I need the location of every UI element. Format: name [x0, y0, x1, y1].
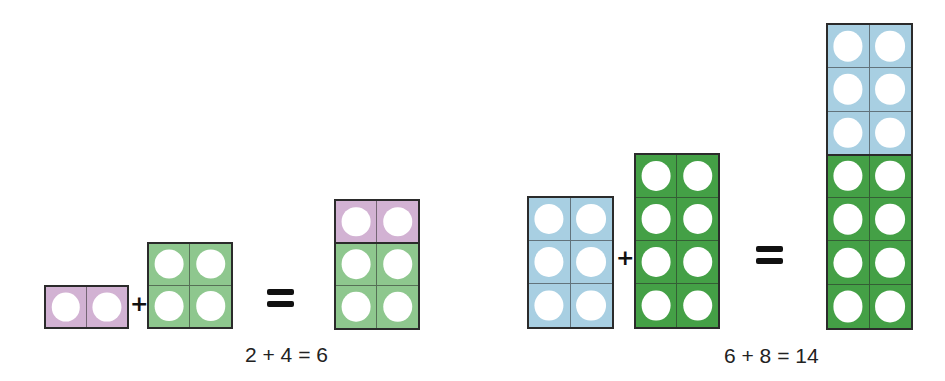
peg-hole-icon — [875, 74, 905, 104]
peg-hole-icon — [535, 247, 564, 277]
peg-hole-icon — [342, 249, 371, 279]
peg-cell — [190, 286, 231, 328]
peg-cell — [571, 284, 613, 327]
numicon-2-pink — [44, 285, 129, 329]
peg-hole-icon — [535, 290, 564, 321]
peg-cell — [828, 155, 870, 198]
peg-hole-icon — [642, 204, 671, 234]
peg-cell — [87, 287, 128, 327]
peg-cell — [828, 285, 870, 328]
segment-divider — [828, 154, 911, 156]
peg-cell — [677, 241, 718, 284]
peg-cell — [677, 284, 718, 327]
peg-cell — [571, 198, 613, 241]
peg-cell — [870, 68, 912, 111]
peg-cell — [828, 198, 870, 241]
peg-hole-icon — [875, 117, 905, 147]
caption-equation-1: 2 + 4 = 6 — [245, 343, 328, 367]
peg-hole-icon — [875, 291, 905, 322]
peg-hole-icon — [196, 291, 226, 321]
peg-cell — [336, 201, 377, 243]
peg-cell — [529, 198, 571, 241]
peg-hole-icon — [642, 161, 671, 191]
peg-hole-icon — [875, 204, 905, 234]
peg-cell — [870, 285, 912, 328]
peg-cell — [636, 284, 677, 327]
numicon-6-result — [334, 199, 420, 330]
peg-cell — [677, 155, 718, 198]
plus-sign-1: + — [130, 293, 148, 315]
peg-hole-icon — [834, 117, 863, 147]
peg-hole-icon — [683, 290, 713, 321]
peg-cell — [377, 201, 418, 243]
peg-hole-icon — [576, 204, 606, 234]
peg-cell — [828, 241, 870, 284]
peg-cell — [636, 155, 677, 198]
peg-cell — [377, 243, 418, 285]
peg-hole-icon — [834, 291, 863, 322]
equals-sign-1 — [267, 289, 294, 307]
peg-cell — [571, 241, 613, 284]
peg-hole-icon — [52, 293, 80, 322]
peg-hole-icon — [383, 207, 413, 237]
peg-cell — [870, 198, 912, 241]
caption-equation-2: 6 + 8 = 14 — [724, 344, 819, 368]
peg-cell — [46, 287, 87, 327]
numicon-14-result — [826, 23, 913, 330]
peg-hole-icon — [155, 291, 184, 321]
peg-hole-icon — [642, 247, 671, 277]
equals-sign-2 — [756, 246, 783, 264]
numicon-8-dark-green — [634, 153, 720, 329]
peg-cell — [870, 25, 912, 68]
peg-hole-icon — [92, 293, 121, 322]
peg-hole-icon — [155, 250, 184, 279]
peg-hole-icon — [834, 74, 863, 104]
peg-hole-icon — [834, 204, 863, 234]
peg-cell — [149, 244, 190, 286]
peg-cell — [336, 243, 377, 285]
peg-cell — [190, 244, 231, 286]
peg-cell — [529, 284, 571, 327]
numicon-4-green — [147, 242, 233, 329]
peg-hole-icon — [196, 250, 226, 279]
peg-hole-icon — [576, 290, 606, 321]
peg-cell — [828, 68, 870, 111]
peg-hole-icon — [683, 161, 713, 191]
peg-cell — [377, 286, 418, 328]
peg-hole-icon — [875, 247, 905, 277]
peg-hole-icon — [535, 204, 564, 234]
numicon-6-blue — [527, 196, 614, 329]
peg-hole-icon — [875, 31, 905, 61]
peg-cell — [870, 155, 912, 198]
peg-cell — [636, 198, 677, 241]
segment-divider — [336, 242, 418, 244]
peg-hole-icon — [834, 161, 863, 191]
peg-cell — [636, 241, 677, 284]
peg-cell — [870, 112, 912, 155]
peg-hole-icon — [383, 292, 413, 322]
peg-cell — [149, 286, 190, 328]
peg-cell — [870, 241, 912, 284]
peg-hole-icon — [683, 204, 713, 234]
peg-hole-icon — [342, 292, 371, 322]
peg-hole-icon — [383, 249, 413, 279]
peg-hole-icon — [642, 290, 671, 321]
peg-hole-icon — [875, 161, 905, 191]
plus-sign-2: + — [616, 247, 634, 269]
peg-hole-icon — [576, 247, 606, 277]
peg-hole-icon — [342, 207, 371, 237]
peg-cell — [828, 112, 870, 155]
peg-cell — [529, 241, 571, 284]
peg-cell — [336, 286, 377, 328]
peg-cell — [677, 198, 718, 241]
peg-hole-icon — [834, 247, 863, 277]
peg-hole-icon — [683, 247, 713, 277]
peg-cell — [828, 25, 870, 68]
peg-hole-icon — [834, 31, 863, 61]
